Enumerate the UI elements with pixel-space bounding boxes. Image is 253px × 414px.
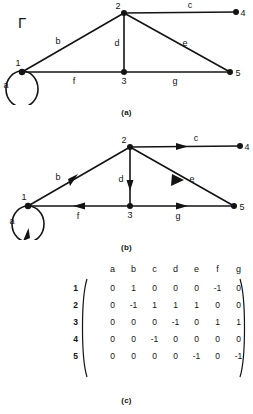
- node-2-dot: [121, 10, 127, 16]
- matrix-cell-1g: 0: [228, 279, 249, 296]
- node-2-label: 2: [115, 1, 120, 11]
- edge-e-label: e: [182, 38, 187, 48]
- matrix-gap: [81, 279, 102, 296]
- matrix-cell-1b: 1: [123, 279, 144, 296]
- node-5-label-directed: 5: [239, 202, 244, 212]
- matrix-row-head-3: 3: [62, 313, 81, 330]
- matrix-cell-5b: 0: [123, 347, 144, 364]
- matrix-cell-1a: 0: [102, 279, 123, 296]
- matrix-cell-5d: 0: [165, 347, 186, 364]
- edge-a-selfloop: [6, 71, 38, 105]
- matrix-cell-3g: 1: [228, 313, 249, 330]
- table-row: 5 0 0 0 0 -1 0 -1: [62, 347, 249, 364]
- node-5-dot-directed: [231, 203, 237, 209]
- edge-f-label: f: [73, 76, 76, 86]
- matrix-cell-5c: 0: [144, 347, 165, 364]
- matrix-gap: [81, 330, 102, 347]
- caption-c: (c): [0, 396, 253, 405]
- matrix-cell-5g: -1: [228, 347, 249, 364]
- figure-page: 1 2 3 4 5 a b c d e f g Γ (a): [0, 0, 253, 414]
- matrix-cell-4g: 0: [228, 330, 249, 347]
- matrix-row-head-4: 4: [62, 330, 81, 347]
- caption-a: (a): [0, 108, 253, 117]
- matrix-cell-4a: 0: [102, 330, 123, 347]
- edge-d-label: d: [114, 38, 119, 48]
- graph-b-svg: 1 2 3 4 5 a b c d e f g: [0, 128, 253, 240]
- table-row: 2 0 -1 1 1 1 0 0: [62, 296, 249, 313]
- matrix-col-head-f: f: [207, 262, 228, 279]
- matrix-gap-left: [81, 262, 102, 279]
- arrowhead-d: [127, 180, 134, 191]
- matrix-col-head-b: b: [123, 262, 144, 279]
- matrix-cell-3e: 0: [186, 313, 207, 330]
- table-row: 3 0 0 0 -1 0 1 1: [62, 313, 249, 330]
- edge-b-label: b: [55, 36, 60, 46]
- matrix-cell-2e: 1: [186, 296, 207, 313]
- matrix-cell-2d: 1: [165, 296, 186, 313]
- graph-symbol-gamma: Γ: [18, 14, 26, 31]
- matrix-cell-5f: 0: [207, 347, 228, 364]
- graph-a-svg: 1 2 3 4 5 a b c d e f g Γ: [0, 0, 253, 105]
- matrix-cell-1c: 0: [144, 279, 165, 296]
- edge-f-label-directed: f: [77, 211, 80, 221]
- edge-d-label-directed: d: [118, 174, 123, 184]
- edge-g-label: g: [172, 76, 177, 86]
- matrix-cell-3a: 0: [102, 313, 123, 330]
- matrix-row-head-2: 2: [62, 296, 81, 313]
- matrix-cell-4c: -1: [144, 330, 165, 347]
- matrix-cell-4e: 0: [186, 330, 207, 347]
- edge-b-label-directed: b: [55, 172, 60, 182]
- matrix-cell-3b: 0: [123, 313, 144, 330]
- matrix-cell-1f: -1: [207, 279, 228, 296]
- node-4-dot-directed: [237, 143, 243, 149]
- matrix-col-head-c: c: [144, 262, 165, 279]
- matrix-cell-3f: 1: [207, 313, 228, 330]
- matrix-col-head-e: e: [186, 262, 207, 279]
- matrix-gap: [81, 347, 102, 364]
- node-1-dot: [19, 69, 25, 75]
- matrix-corner: [62, 262, 81, 279]
- matrix-col-head-a: a: [102, 262, 123, 279]
- arrowhead-f: [73, 203, 85, 210]
- matrix-cell-2a: 0: [102, 296, 123, 313]
- matrix-col-head-g: g: [228, 262, 249, 279]
- edge-b-line-directed: [28, 147, 130, 206]
- graph-panel-directed: 1 2 3 4 5 a b c d e f g: [0, 128, 253, 240]
- matrix-gap: [81, 296, 102, 313]
- table-row: 1 0 1 0 0 0 -1 0: [62, 279, 249, 296]
- node-1-label-directed: 1: [21, 192, 26, 202]
- node-3-dot: [121, 69, 127, 75]
- matrix-cell-1d: 0: [165, 279, 186, 296]
- matrix-cell-4f: 0: [207, 330, 228, 347]
- node-2-label-directed: 2: [121, 135, 126, 145]
- node-4-dot: [233, 9, 239, 15]
- node-2-dot-directed: [127, 144, 133, 150]
- node-4-label-directed: 4: [244, 142, 249, 152]
- matrix-cell-2b: -1: [123, 296, 144, 313]
- edge-c-label: c: [188, 0, 193, 10]
- matrix-cell-3d: -1: [165, 313, 186, 330]
- edge-g-label-directed: g: [175, 211, 180, 221]
- matrix-row-head-1: 1: [62, 279, 81, 296]
- node-3-label-directed: 3: [127, 210, 132, 220]
- matrix-row-head-5: 5: [62, 347, 81, 364]
- edge-a-label-directed: a: [9, 216, 14, 226]
- incidence-matrix-block: AΓ a b c d e f: [0, 262, 253, 392]
- matrix-gap: [81, 313, 102, 330]
- table-row: 4 0 0 -1 0 0 0 0: [62, 330, 249, 347]
- incidence-matrix-table: a b c d e f g 1 0 1 0 0 0 -: [62, 262, 249, 364]
- arrowhead-b: [68, 174, 78, 186]
- arrowhead-g: [176, 203, 188, 210]
- edge-c-label-directed: c: [194, 133, 199, 143]
- arrowhead-a: [23, 228, 30, 240]
- matrix-cell-4d: 0: [165, 330, 186, 347]
- matrix-cell-5a: 0: [102, 347, 123, 364]
- node-3-label: 3: [121, 76, 126, 86]
- edge-c-line: [124, 12, 236, 13]
- matrix-cell-1e: 0: [186, 279, 207, 296]
- edge-e-label-directed: e: [189, 174, 194, 184]
- edge-b-line: [22, 13, 124, 72]
- matrix-header-row: a b c d e f g: [62, 262, 249, 279]
- edge-a-label: a: [3, 80, 8, 90]
- node-3-dot-directed: [127, 203, 133, 209]
